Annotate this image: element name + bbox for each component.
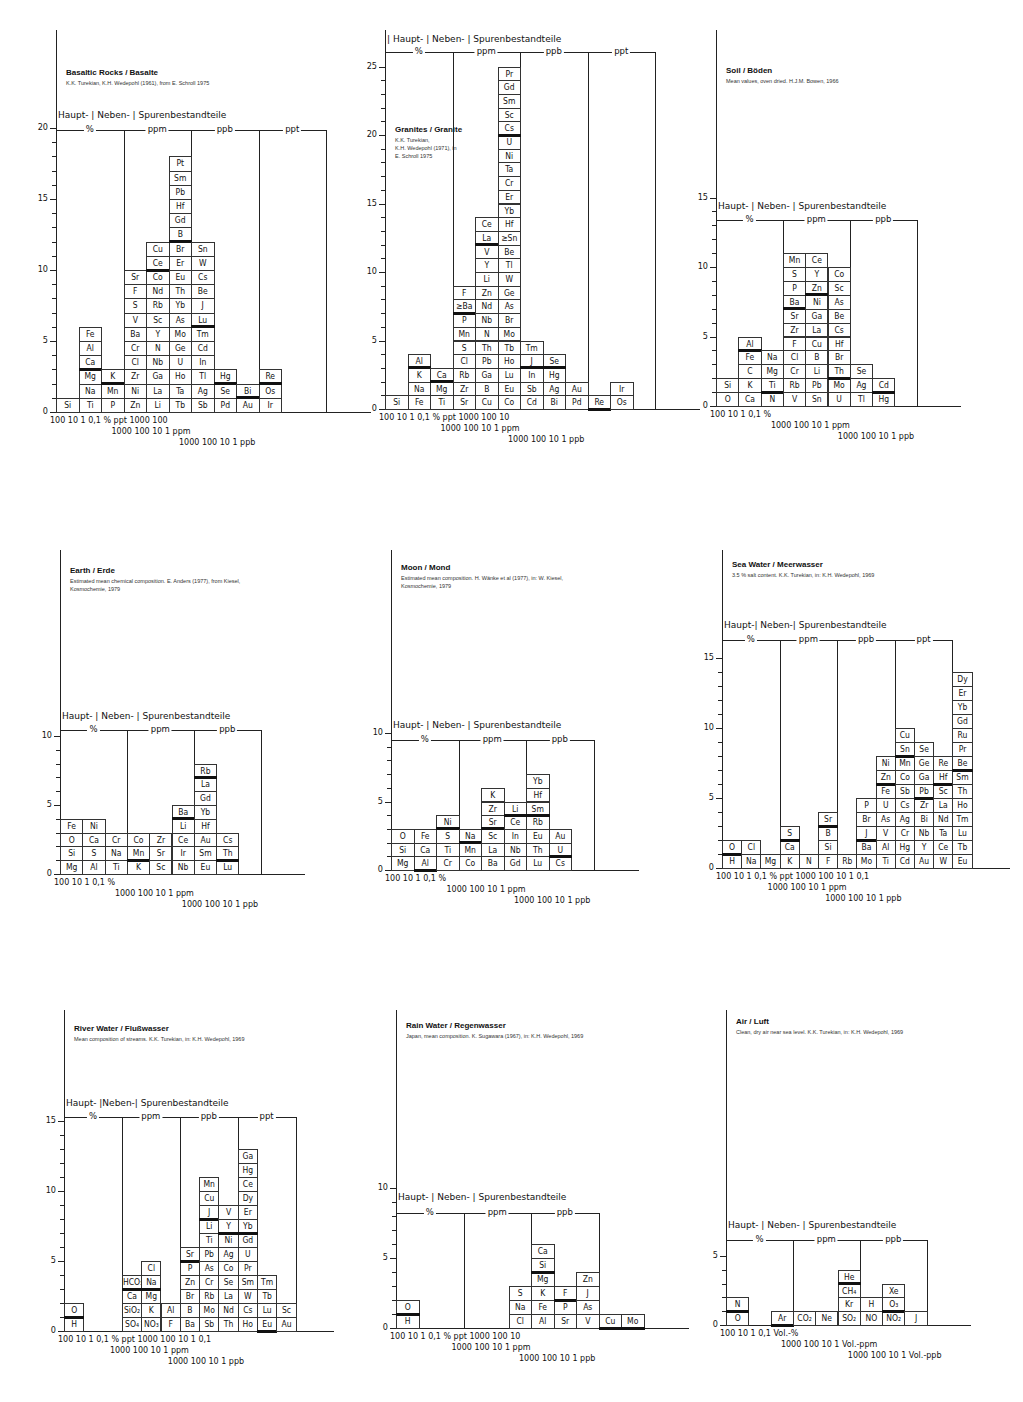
element-cell: NO (860, 1311, 883, 1326)
decade-marker (257, 1330, 277, 1333)
y-tick (381, 258, 385, 259)
element-cell: Pb (199, 1247, 219, 1262)
y-tick (718, 770, 722, 771)
y-tick (52, 171, 56, 172)
element-cell: Pr (498, 67, 522, 82)
element-cell: Lu (952, 826, 972, 841)
element-cell: O (716, 392, 739, 407)
y-tick (710, 337, 716, 338)
element-cell: Ce (172, 833, 195, 848)
element-cell: La (194, 777, 217, 792)
element-cell: Ni (124, 384, 148, 399)
x-tick-labels: 1000 100 10 1 ppb (182, 900, 258, 909)
unit-label: % (745, 634, 757, 644)
element-cell: V (876, 826, 896, 841)
element-cell: Nd (475, 299, 499, 314)
y-tick (379, 272, 385, 273)
y-tick (718, 742, 722, 743)
element-cell: Tm (191, 327, 215, 342)
component-groups-label: Haupt- | Neben- | Spurenbestandteile (62, 711, 230, 721)
element-cell: Gd (504, 856, 528, 871)
y-tick (385, 733, 391, 734)
element-cell: Li (475, 272, 499, 287)
element-cell: Mo (199, 1303, 219, 1318)
x-tick-labels: 1000 100 10 1 ppm (452, 1343, 531, 1352)
element-cell: Ce (805, 253, 828, 268)
element-cell: La (146, 384, 170, 399)
unit-label: ppm (146, 124, 169, 134)
y-tick (722, 1284, 726, 1285)
y-tick (381, 149, 385, 150)
element-cell: SO₄ (122, 1317, 142, 1332)
element-cell: Ba (124, 327, 148, 342)
x-tick-labels: 1000 100 10 1 ppm (115, 889, 194, 898)
decade-marker (621, 1327, 645, 1330)
element-cell: Sc (933, 784, 953, 799)
element-cell: V (218, 1205, 238, 1220)
element-cell: H (722, 854, 742, 869)
y-tick-label: 5 (686, 331, 708, 341)
y-tick (712, 211, 716, 212)
y-tick (712, 239, 716, 240)
unit-label: ppb (217, 724, 237, 734)
element-cell: Cl (453, 354, 477, 369)
unit-range-line: ppm (783, 220, 850, 221)
y-axis (726, 1010, 727, 1325)
chart-subtitle: K.H. Wedepohl (1971), in (395, 144, 457, 152)
unit-range-line: ppm (127, 730, 194, 731)
element-cell: Se (850, 364, 873, 379)
element-cell: Y (475, 258, 499, 273)
y-tick (379, 67, 385, 68)
element-cell: Cs (216, 833, 239, 848)
y-tick (52, 242, 56, 243)
decade-marker (818, 825, 838, 828)
element-cell: Th (475, 341, 499, 356)
element-cell: O (60, 833, 83, 848)
element-cell: Tb (952, 840, 972, 855)
y-tick (381, 382, 385, 383)
element-cell: Ni (218, 1233, 238, 1248)
unit-label: % (743, 214, 755, 224)
element-cell: K (738, 378, 761, 393)
x-tick-labels: 100 10 1 0,1 % ppt 1000 100 (50, 416, 168, 425)
element-cell: Li (146, 398, 170, 413)
element-cell: Hg (543, 368, 567, 383)
unit-range-line: ppb (191, 130, 259, 131)
element-cell: Mg (531, 1272, 555, 1287)
y-tick (381, 231, 385, 232)
y-tick (718, 812, 722, 813)
decade-marker (122, 1288, 142, 1291)
y-tick (716, 728, 722, 729)
element-cell: Tl (191, 369, 215, 384)
element-cell: Cl (783, 350, 806, 365)
element-cell: Ba (180, 1317, 200, 1332)
element-cell: Na (509, 1300, 533, 1315)
chart-title: Earth / Erde (70, 566, 115, 575)
decade-marker (64, 1316, 84, 1319)
element-cell: Br (828, 350, 851, 365)
unit-range-line: ppb (526, 740, 594, 741)
decade-marker (453, 312, 477, 315)
element-cell: Ne (815, 1311, 838, 1326)
x-tick-labels: 1000 100 10 1 ppb (508, 435, 584, 444)
decade-marker (726, 1310, 749, 1313)
decade-marker (876, 783, 896, 786)
element-cell: H (860, 1297, 883, 1312)
x-tick-labels: 100 10 1 0,1 Vol.-% (720, 1329, 798, 1338)
element-cell: Gd (498, 80, 522, 95)
element-cell: Tm (257, 1275, 277, 1290)
chart-subtitle: Mean composition of streams. K.K. Tureki… (74, 1035, 244, 1043)
decade-marker (408, 366, 432, 369)
decade-marker (218, 1232, 238, 1235)
decade-marker (146, 269, 170, 272)
x-tick-labels: 1000 100 10 1 ppb (838, 432, 914, 441)
y-tick (381, 190, 385, 191)
decade-boundary-line (464, 1213, 465, 1328)
element-cell: Li (199, 1219, 219, 1234)
y-tick (392, 1244, 396, 1245)
y-tick-label: 0 (361, 864, 383, 874)
y-tick (52, 156, 56, 157)
element-cell: B (818, 826, 838, 841)
element-cell: Tm (952, 812, 972, 827)
element-cell: Mn (783, 253, 806, 268)
